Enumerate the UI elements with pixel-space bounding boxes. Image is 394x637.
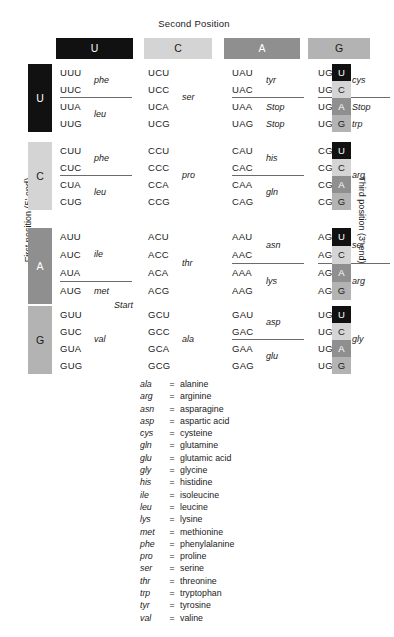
legend-row: gly=glycine (140, 464, 320, 476)
third-position-chip-A: A (332, 264, 351, 282)
codon-cell-A-C: ACUACCACAACGthr (148, 228, 232, 300)
amino-acid-leu: leu (94, 109, 106, 119)
codon-group-divider (318, 263, 390, 264)
first-position-label-C: C (28, 142, 52, 210)
legend-separator: = (164, 439, 180, 451)
codon-line: UAAStop (232, 98, 318, 115)
codon-GUA: GUA (60, 340, 91, 357)
legend-name-leu: leucine (180, 501, 208, 513)
legend-separator: = (164, 390, 180, 402)
third-position-chip-G: G (332, 115, 351, 132)
codon-line: CCU (148, 142, 232, 159)
codon-cell-A-G: AGUAGCAGAAGGserarg (318, 228, 394, 300)
codon-cell-G-U: GUUGUCGUAGUGval (60, 306, 148, 374)
legend-row: gln=glutamine (140, 439, 320, 451)
codon-CAC: CAC (232, 159, 263, 176)
codon-row-G: GGUUGUCGUAGUGvalGCUGCCGCAGCGalaGAUGACGAA… (0, 306, 388, 378)
codon-cell-C-U: CUUCUCCUACUGpheleu (60, 142, 148, 210)
legend-abbr-asn: asn (140, 403, 164, 415)
legend-separator: = (164, 575, 180, 587)
legend-separator: = (164, 526, 180, 538)
codon-cell-C-C: CCUCCCCCACCGpro (148, 142, 232, 210)
codon-UUU: UUU (60, 64, 91, 81)
codon-CCA: CCA (148, 176, 179, 193)
legend-row: glu=glutamic acid (140, 452, 320, 464)
second-position-header-C: C (144, 38, 212, 59)
legend-separator: = (164, 464, 180, 476)
second-position-header-A: A (224, 38, 300, 59)
amino-acid-phe: phe (94, 75, 109, 85)
legend-abbr-val: val (140, 612, 164, 624)
codon-line: UGGtrp (318, 115, 394, 132)
codon-CCU: CCU (148, 142, 179, 159)
codon-line: ACG (148, 282, 232, 300)
third-position-chip-G: G (332, 357, 351, 374)
codon-CAG: CAG (232, 193, 263, 210)
legend-separator: = (164, 513, 180, 525)
codon-cell-G-A: GAUGACGAAGAGaspglu (232, 306, 318, 374)
amino-acid-inline: trp (349, 119, 363, 129)
third-position-chip-stack: UCAG (332, 142, 351, 210)
legend-row: ile=isoleucine (140, 489, 320, 501)
amino-acid-arg: arg (352, 170, 365, 180)
codon-cell-A-A: AAUAACAAAAAGasnlys (232, 228, 318, 300)
codon-line: UCG (148, 115, 232, 132)
codon-UAC: UAC (232, 81, 263, 98)
legend-separator: = (164, 452, 180, 464)
codon-CCC: CCC (148, 159, 179, 176)
second-position-header-U: U (56, 38, 133, 59)
codon-group-divider (232, 263, 304, 264)
codon-cell-U-C: UCUUCCUCAUCGser (148, 64, 232, 132)
codon-line: CCG (148, 193, 232, 210)
legend-separator: = (164, 612, 180, 624)
third-position-chip-U: U (332, 64, 351, 81)
codon-group-divider (60, 175, 132, 176)
legend-name-his: histidine (180, 476, 212, 488)
codon-group-divider (60, 97, 132, 98)
legend-name-asp: aspartic acid (180, 415, 229, 427)
legend-row: lys=lysine (140, 513, 320, 525)
codon-GCU: GCU (148, 306, 179, 323)
third-position-chip-G: G (332, 282, 351, 300)
legend-abbr-arg: arg (140, 390, 164, 402)
third-position-chip-A: A (332, 340, 351, 357)
codon-cell-C-G: CGUCGCCGACGGarg (318, 142, 394, 210)
legend-abbr-his: his (140, 476, 164, 488)
legend-row: asp=aspartic acid (140, 415, 320, 427)
amino-acid-gln: gln (266, 187, 278, 197)
legend-abbr-met: met (140, 526, 164, 538)
legend-abbr-glu: glu (140, 452, 164, 464)
codon-cell-C-A: CAUCACCAACAGhisgln (232, 142, 318, 210)
codon-CUC: CUC (60, 159, 91, 176)
codon-line: UGU (318, 306, 394, 323)
legend-row: val=valine (140, 612, 320, 624)
legend-row: met=methionine (140, 526, 320, 538)
third-position-chip-U: U (332, 142, 351, 159)
legend-abbr-cys: cys (140, 427, 164, 439)
codon-AUC: AUC (60, 246, 91, 264)
codon-GAG: GAG (232, 357, 263, 374)
codon-group-divider (232, 339, 304, 340)
third-position-chip-G: G (332, 193, 351, 210)
third-position-chip-C: C (332, 323, 351, 340)
legend-separator: = (164, 501, 180, 513)
amino-acid-phe: phe (94, 153, 109, 163)
legend-separator: = (164, 562, 180, 574)
legend-name-thr: threonine (180, 575, 217, 587)
codon-CUA: CUA (60, 176, 91, 193)
amino-acid-val: val (94, 334, 106, 344)
codon-ACA: ACA (148, 264, 179, 282)
third-position-chip-C: C (332, 81, 351, 98)
third-position-chip-stack: UCAG (332, 64, 351, 132)
legend-row: ala=alanine (140, 378, 320, 390)
amino-acid-tyr: tyr (266, 75, 276, 85)
amino-acid-lys: lys (266, 276, 277, 286)
codon-row-A: AAUUAUCAUAAUGmetileStartACUACCACAACGthrA… (0, 228, 388, 308)
codon-CCG: CCG (148, 193, 179, 210)
codon-line: AUU (60, 228, 148, 246)
legend-row: leu=leucine (140, 501, 320, 513)
codon-UCU: UCU (148, 64, 179, 81)
codon-group-divider (232, 97, 304, 98)
codon-GUC: GUC (60, 323, 91, 340)
third-position-chip-C: C (332, 159, 351, 176)
